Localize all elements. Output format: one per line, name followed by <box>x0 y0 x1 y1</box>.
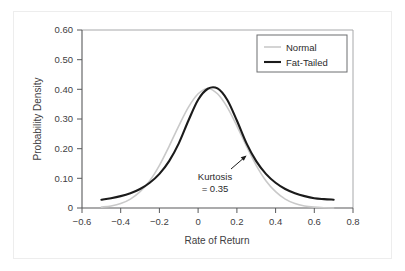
legend-label-fat-tailed: Fat-Tailed <box>286 57 328 68</box>
probability-density-chart: 0 0.10 0.20 0.30 0.40 0.50 0.60 −0.6 <box>14 12 393 260</box>
y-axis-tick-labels: 0 0.10 0.20 0.30 0.40 0.50 0.60 <box>55 24 74 213</box>
y-tick-label: 0.40 <box>55 84 74 95</box>
x-axis-tick-labels: −0.6 −0.4 −0.2 0 0.2 0.4 0.6 0.8 <box>73 216 360 227</box>
figure-card: 0 0.10 0.20 0.30 0.40 0.50 0.60 −0.6 <box>13 11 392 259</box>
kurtosis-annotation: Kurtosis = 0.35 <box>198 156 247 194</box>
x-tick-label: 0.4 <box>269 216 282 227</box>
x-tick-label: −0.6 <box>73 216 92 227</box>
x-tick-label: 0.6 <box>308 216 321 227</box>
legend-label-normal: Normal <box>286 42 317 53</box>
y-tick-label: 0.50 <box>55 54 74 65</box>
y-tick-label: 0.30 <box>55 113 74 124</box>
annotation-line-1: Kurtosis <box>198 171 233 182</box>
x-tick-label: 0 <box>195 216 200 227</box>
annotation-line-2: = 0.35 <box>202 183 229 194</box>
y-axis-title: Probability Density <box>32 78 43 161</box>
chart-legend[interactable]: Normal Fat-Tailed <box>257 35 347 72</box>
y-tick-label: 0 <box>68 202 73 213</box>
y-tick-label: 0.20 <box>55 143 74 154</box>
x-axis-ticks <box>82 208 353 213</box>
x-tick-label: 0.2 <box>230 216 243 227</box>
y-tick-label: 0.60 <box>55 24 74 35</box>
chart-page: 0 0.10 0.20 0.30 0.40 0.50 0.60 −0.6 <box>0 0 405 271</box>
x-axis-title: Rate of Return <box>184 235 249 246</box>
x-tick-label: 0.8 <box>346 216 359 227</box>
x-tick-label: −0.4 <box>111 216 130 227</box>
x-tick-label: −0.2 <box>150 216 169 227</box>
y-tick-label: 0.10 <box>55 173 74 184</box>
y-axis-ticks <box>77 30 82 208</box>
